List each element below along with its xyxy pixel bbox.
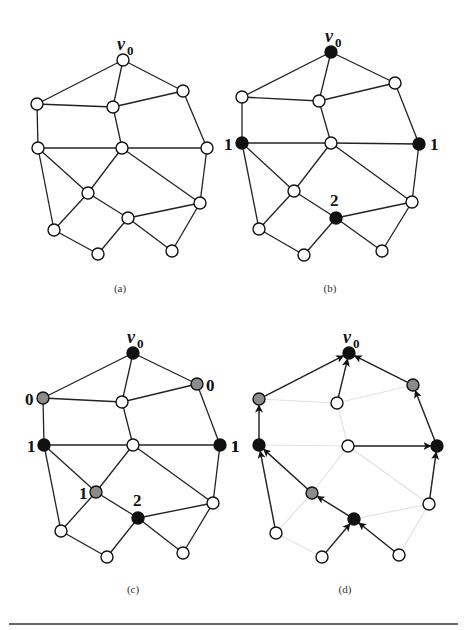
edge xyxy=(294,143,331,191)
edge xyxy=(113,91,183,107)
node-tr-gray xyxy=(191,378,203,390)
edge xyxy=(183,91,207,148)
node-il-white xyxy=(288,185,300,197)
node-cu-white xyxy=(313,95,325,107)
v0-subscript: 0 xyxy=(137,336,144,351)
tree-arrow xyxy=(326,524,350,552)
edge xyxy=(54,193,88,230)
node-bc-white xyxy=(101,551,113,563)
edge xyxy=(336,218,382,251)
node-rl-white xyxy=(423,498,435,510)
distance-label: 1 xyxy=(27,437,36,456)
node-lu-gray xyxy=(253,393,265,405)
edge xyxy=(337,385,413,403)
node-bc-white xyxy=(298,249,310,261)
v0-subscript: 0 xyxy=(353,336,360,351)
edge xyxy=(43,353,133,398)
panels-layer: v0(a)v0112(b)v0001112(c)v01(d) xyxy=(25,26,443,596)
node-bl-white xyxy=(270,527,282,539)
edge xyxy=(54,230,98,254)
edge xyxy=(88,148,122,193)
nodes xyxy=(236,46,425,261)
edge xyxy=(122,384,197,402)
node-lm-white xyxy=(32,142,44,154)
edge xyxy=(412,144,419,202)
node-lm-black xyxy=(236,137,248,149)
edge xyxy=(319,52,331,101)
edge xyxy=(395,83,419,144)
node-cu-white xyxy=(331,397,343,409)
edge xyxy=(183,503,213,553)
node-lu-white xyxy=(236,91,248,103)
edge xyxy=(382,202,412,251)
node-lm-black xyxy=(253,439,265,451)
panel-caption: (b) xyxy=(324,282,337,295)
edge xyxy=(43,398,44,445)
node-tr-white xyxy=(389,77,401,89)
distance-label: 1 xyxy=(430,135,439,154)
node-br-white xyxy=(393,549,405,561)
edge xyxy=(138,518,183,553)
node-rl-white xyxy=(207,497,219,509)
edge xyxy=(96,445,133,492)
node-rl-white xyxy=(194,197,206,209)
node-cl-black xyxy=(330,212,342,224)
edge xyxy=(331,143,412,202)
distance-label: 1 xyxy=(79,484,88,503)
panel-caption: (d) xyxy=(339,583,352,596)
distance-label: 2 xyxy=(330,191,339,210)
edge xyxy=(122,353,133,402)
edge xyxy=(88,193,128,218)
tree-arrow xyxy=(264,356,343,396)
edge xyxy=(259,445,348,446)
node-bl-white xyxy=(253,223,265,235)
node-rl-white xyxy=(406,196,418,208)
tree-arrow xyxy=(318,496,349,515)
edge xyxy=(319,83,395,101)
edge xyxy=(213,445,220,503)
distance-label: 1 xyxy=(231,437,240,456)
edge xyxy=(259,399,337,403)
edge xyxy=(331,143,419,144)
v0-subscript: 0 xyxy=(127,43,134,58)
node-il-gray xyxy=(306,487,318,499)
node-il-gray xyxy=(90,486,102,498)
distance-label: 0 xyxy=(206,376,215,395)
node-tr-gray xyxy=(407,379,419,391)
node-cl-black xyxy=(348,513,360,525)
node-cu-white xyxy=(116,396,128,408)
edge xyxy=(98,218,128,254)
edge xyxy=(133,445,213,503)
node-il-white xyxy=(82,187,94,199)
distance-label: 2 xyxy=(133,491,142,510)
edge xyxy=(113,60,123,107)
distance-label: 0 xyxy=(25,390,34,409)
edge xyxy=(133,353,197,384)
node-cm-white xyxy=(127,439,139,451)
edge xyxy=(276,493,312,533)
edge xyxy=(128,218,172,251)
edge xyxy=(336,202,412,218)
node-rm-black xyxy=(413,138,425,150)
panel-a: v0(a) xyxy=(31,34,213,295)
edge xyxy=(61,531,107,557)
tree-arrow xyxy=(260,451,275,527)
edge xyxy=(200,148,207,203)
v0-label: v xyxy=(127,327,136,347)
edge xyxy=(259,229,304,255)
tree-arrow xyxy=(430,452,436,498)
edge xyxy=(43,398,122,402)
edge xyxy=(331,52,395,83)
edge xyxy=(354,504,429,519)
node-br-white xyxy=(166,245,178,257)
tree-arrow xyxy=(264,449,308,489)
panel-caption: (a) xyxy=(114,282,127,295)
edge xyxy=(37,60,123,104)
node-br-white xyxy=(376,245,388,257)
node-bc-white xyxy=(316,551,328,563)
graph-figure: v0(a)v0112(b)v0001112(c)v01(d) xyxy=(0,0,471,630)
node-lu-white xyxy=(31,98,43,110)
edge xyxy=(37,104,113,107)
node-tr-white xyxy=(177,85,189,97)
edge xyxy=(399,504,429,555)
